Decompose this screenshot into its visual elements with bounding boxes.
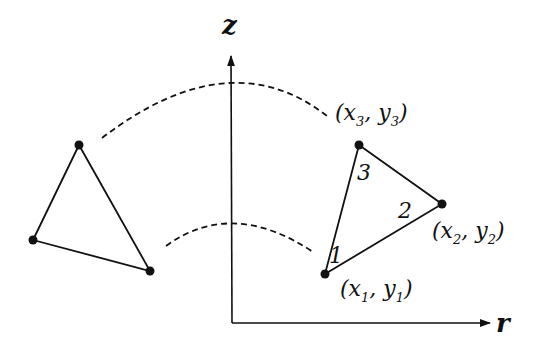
lower-dashed-arc [166, 223, 313, 252]
node-number-3: 3 [357, 160, 371, 185]
node-1 [321, 270, 330, 279]
z-axis-label: z [221, 10, 238, 40]
svg-text:(x1, y1): (x1, y1) [340, 276, 413, 305]
z-axis [231, 56, 232, 323]
svg-text:(x2, y2): (x2, y2) [432, 218, 505, 247]
left-triangle-edges [33, 145, 150, 271]
coord-label-1: (x1, y1) [340, 276, 413, 305]
left-vertex-bottom [146, 267, 155, 276]
coord-label-3: (x3, y3) [335, 100, 408, 129]
finite-element-diagram: z r 1 2 3 (x3, y [0, 0, 539, 342]
node-number-1: 1 [329, 243, 343, 268]
revolution-arcs [102, 83, 327, 252]
r-axis-label: r [496, 308, 512, 338]
left-vertex-left [29, 236, 38, 245]
upper-dashed-arc [102, 83, 327, 138]
svg-text:(x3, y3): (x3, y3) [335, 100, 408, 129]
node-3 [355, 141, 364, 150]
left-vertex-top [75, 141, 84, 150]
node-number-2: 2 [397, 198, 412, 223]
left-triangle [29, 141, 155, 276]
diagram-canvas: z r 1 2 3 (x3, y [0, 0, 539, 342]
coord-label-2: (x2, y2) [432, 218, 505, 247]
node-2 [438, 200, 447, 209]
right-triangle: 1 2 3 (x3, y3) (x2, y2) (x1, y1) [321, 100, 505, 305]
